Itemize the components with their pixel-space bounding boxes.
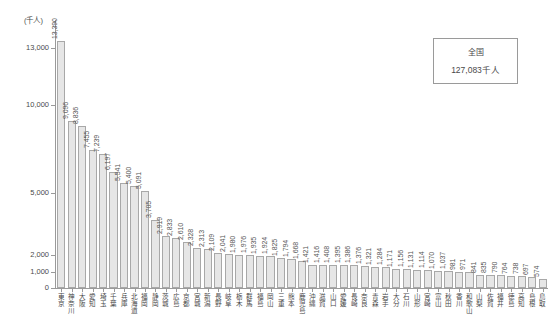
x-axis-tick [449, 288, 450, 292]
bar[interactable] [476, 275, 484, 288]
x-axis-tick [501, 288, 502, 292]
bar[interactable] [361, 266, 369, 288]
bar[interactable] [298, 261, 306, 288]
x-axis-tick [124, 288, 125, 292]
bar-value-label: 2,919 [155, 217, 162, 234]
bar[interactable] [319, 265, 327, 288]
x-axis-tick [155, 288, 156, 292]
bar[interactable] [57, 41, 65, 288]
bar[interactable] [99, 154, 107, 288]
y-axis-tick-label: 10,000 [5, 100, 49, 109]
bar[interactable] [403, 269, 411, 288]
x-axis-tick [281, 288, 282, 292]
bar[interactable] [413, 270, 421, 288]
bar[interactable] [528, 277, 536, 288]
bar[interactable] [507, 276, 515, 288]
bar-column[interactable]: 1,114 [424, 20, 432, 288]
bar[interactable] [172, 238, 180, 288]
national-total-value: 127,083千人 [438, 63, 513, 75]
x-axis-category-label: 石川 [402, 294, 411, 308]
bar[interactable] [256, 256, 264, 288]
bar-column[interactable]: 5,400 [130, 20, 138, 288]
bar[interactable] [444, 271, 452, 288]
x-axis-tick [302, 288, 303, 292]
bar-column[interactable]: 3,705 [151, 20, 159, 288]
bar[interactable] [183, 242, 191, 288]
population-bar-chart: (千人) 01,0002,0005,00010,00013,000 13,390… [0, 0, 551, 331]
x-axis-tick [459, 288, 460, 292]
x-axis-tick [312, 288, 313, 292]
bar-column[interactable]: 1,156 [403, 20, 411, 288]
bar[interactable] [214, 253, 222, 288]
bar[interactable] [109, 172, 117, 288]
bar-value-label: 1,070 [428, 252, 435, 269]
bar-column[interactable]: 5,541 [120, 20, 128, 288]
bar-column[interactable]: 9,096 [68, 20, 76, 288]
bar[interactable] [246, 255, 254, 288]
bar[interactable] [382, 267, 390, 288]
bar-column[interactable]: 6,197 [109, 20, 117, 288]
bar-value-label: 790 [490, 262, 497, 273]
bar[interactable] [371, 267, 379, 288]
bar[interactable] [68, 121, 76, 288]
x-axis-tick [438, 288, 439, 292]
bar[interactable] [329, 265, 337, 288]
bar[interactable] [78, 126, 86, 289]
bar[interactable] [392, 269, 400, 288]
bar[interactable] [434, 271, 442, 288]
bar[interactable] [162, 236, 170, 288]
bar[interactable] [539, 279, 547, 288]
bar-column[interactable]: 2,610 [183, 20, 191, 288]
bar[interactable] [204, 249, 212, 288]
bar-value-label: 1,284 [375, 248, 382, 265]
bar-column[interactable]: 7,455 [89, 20, 97, 288]
bar[interactable] [120, 183, 128, 288]
bar-value-label: 2,328 [187, 229, 194, 246]
bar-column[interactable]: 738 [518, 20, 526, 288]
bar-column[interactable]: 574 [539, 20, 547, 288]
x-axis-tick [469, 288, 470, 292]
bar[interactable] [277, 258, 285, 288]
x-axis-tick [490, 288, 491, 292]
bar[interactable] [287, 259, 295, 288]
bar[interactable] [455, 272, 463, 288]
x-axis-tick [197, 288, 198, 292]
bar-value-label: 7,455 [82, 131, 89, 148]
bar[interactable] [465, 272, 473, 288]
bar-value-label: 1,924 [260, 237, 267, 254]
y-axis-tick-label: 2,000 [5, 250, 49, 259]
bar-column[interactable]: 2,919 [162, 20, 170, 288]
x-axis-category-label: 島根 [528, 294, 537, 308]
bar-value-label: 1,156 [396, 250, 403, 267]
x-axis-category-label: 京都 [182, 294, 191, 308]
bar-column[interactable]: 697 [528, 20, 536, 288]
bar[interactable] [340, 265, 348, 288]
bar[interactable] [486, 275, 494, 288]
bar[interactable] [308, 265, 316, 288]
x-axis-tick [344, 288, 345, 292]
bar-value-label: 1,794 [281, 239, 288, 256]
bar[interactable] [235, 255, 243, 288]
bar-column[interactable]: 1,284 [382, 20, 390, 288]
bar-column[interactable]: 5,091 [141, 20, 149, 288]
bar-column[interactable]: 1,171 [392, 20, 400, 288]
bar[interactable] [497, 275, 505, 288]
x-axis-category-label: 鹿児島 [298, 294, 307, 315]
bar-column[interactable]: 2,328 [193, 20, 201, 288]
x-axis-category-label: 神奈川 [67, 294, 76, 315]
bar[interactable] [350, 265, 358, 288]
bar-column[interactable]: 1,131 [413, 20, 421, 288]
bar[interactable] [130, 186, 138, 288]
bar[interactable] [89, 150, 97, 288]
bar[interactable] [266, 256, 274, 288]
bar-column[interactable]: 13,390 [57, 20, 65, 288]
bar-column[interactable]: 8,836 [78, 20, 86, 288]
bar[interactable] [225, 254, 233, 288]
bar[interactable] [424, 270, 432, 288]
y-axis-unit-caption: (千人) [24, 14, 43, 25]
bar[interactable] [193, 248, 201, 288]
bar[interactable] [518, 276, 526, 288]
x-axis-category-label: 徳島 [507, 294, 516, 308]
bar-column[interactable]: 2,833 [172, 20, 180, 288]
x-axis-tick [323, 288, 324, 292]
